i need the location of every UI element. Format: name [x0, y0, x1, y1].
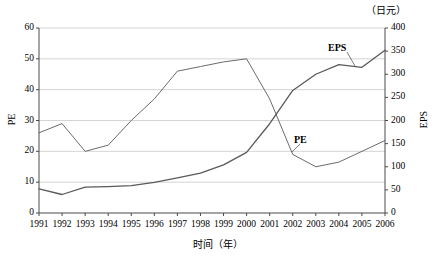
right-tick-label: 0 [391, 208, 396, 218]
left-tick-label: 10 [8, 177, 34, 187]
right-tick-label: 100 [391, 162, 405, 172]
left-tick-label: 50 [8, 54, 34, 64]
left-tick-label: 40 [8, 85, 34, 95]
left-tick-label: 0 [8, 208, 34, 218]
right-tick-label: 200 [391, 116, 405, 126]
pe-leader [292, 144, 300, 152]
right-tick-label: 300 [391, 69, 405, 79]
left-tick-label: 20 [8, 146, 34, 156]
right-tick-label: 150 [391, 139, 405, 149]
pe-eps-line-chart: （日元） PE EPS 时间（年） EPS PE 0102030405060 0… [0, 0, 436, 257]
right-tick-label: 250 [391, 92, 405, 102]
pe-line [39, 59, 385, 167]
right-tick-label: 400 [391, 23, 405, 33]
left-tick-label: 60 [8, 23, 34, 33]
left-tick-label: 30 [8, 116, 34, 126]
right-tick-label: 350 [391, 46, 405, 56]
right-tick-label: 50 [391, 185, 401, 195]
x-tick-label: 2006 [370, 219, 400, 229]
eps-line [39, 50, 385, 194]
